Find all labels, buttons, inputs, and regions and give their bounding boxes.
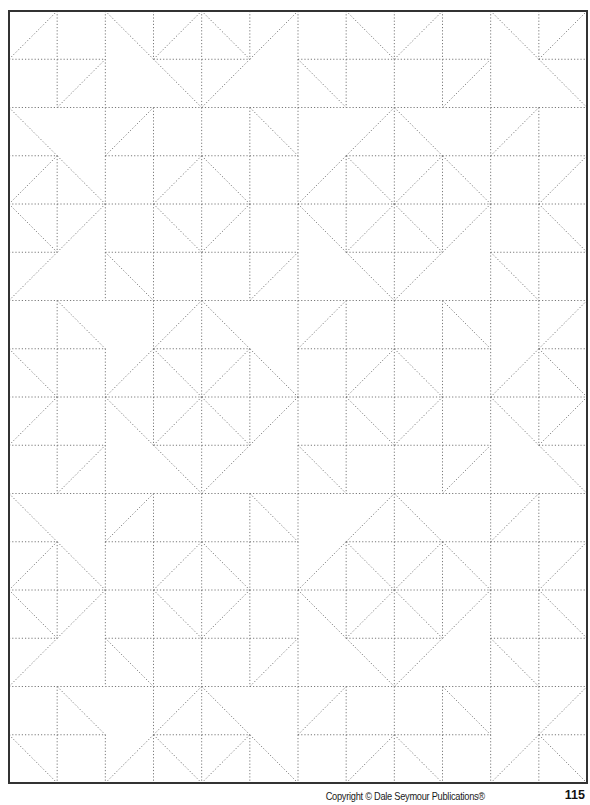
diagonal-dotted-line — [539, 445, 587, 493]
diagonal-dotted-line — [443, 590, 491, 638]
diagonal-dotted-line — [298, 301, 346, 349]
diagonal-dotted-line — [202, 735, 250, 783]
diagonal-dotted-line — [539, 735, 587, 783]
diagonal-dotted-line — [202, 59, 250, 107]
diagonal-dotted-line — [298, 590, 346, 638]
diagonal-dotted-line — [154, 59, 202, 107]
diagonal-dotted-line — [154, 542, 202, 590]
diagonal-dotted-line — [154, 397, 202, 445]
diagonal-dotted-line — [202, 687, 250, 735]
diagonal-dotted-line — [394, 252, 442, 300]
diagonal-dotted-line — [491, 638, 539, 686]
diagonal-dotted-line — [250, 252, 298, 300]
diagonal-dotted-line — [57, 204, 105, 252]
diagonal-dotted-line — [539, 59, 587, 107]
page-footer: Copyright © Dale Seymour Publications® 1… — [0, 784, 590, 805]
diagonal-dotted-line — [346, 349, 394, 397]
diagonal-dotted-line — [443, 687, 491, 735]
diagonal-dotted-line — [202, 11, 250, 59]
diagonal-dotted-line — [298, 542, 346, 590]
diagonal-dotted-line — [105, 11, 153, 59]
diagonal-dotted-line — [57, 445, 105, 493]
diagonal-dotted-line — [394, 735, 442, 783]
page-number: 115 — [565, 788, 585, 802]
diagonal-dotted-line — [154, 301, 202, 349]
diagonal-dotted-line — [539, 204, 587, 252]
diagonal-dotted-line — [105, 397, 153, 445]
diagonal-dotted-line — [202, 445, 250, 493]
diagonal-dotted-line — [346, 156, 394, 204]
diagonal-dotted-line — [346, 108, 394, 156]
diagonal-dotted-line — [250, 735, 298, 783]
diagonal-dotted-line — [105, 735, 153, 783]
diagonal-dotted-line — [250, 638, 298, 686]
diagonal-dotted-line — [539, 542, 587, 590]
diagonal-dotted-line — [9, 638, 57, 686]
diagonal-dotted-line — [394, 108, 442, 156]
diagonal-dotted-line — [539, 301, 587, 349]
diagonal-dotted-line — [539, 397, 587, 445]
diagonal-dotted-line — [394, 204, 442, 252]
diagonal-dotted-line — [202, 590, 250, 638]
quilt-pattern-grid — [0, 0, 590, 790]
diagonal-dotted-line — [250, 11, 298, 59]
diagonal-dotted-line — [394, 542, 442, 590]
diagonal-dotted-line — [539, 11, 587, 59]
diagonal-dotted-line — [9, 542, 57, 590]
diagonal-dotted-line — [105, 638, 153, 686]
diagonal-dotted-line — [154, 11, 202, 59]
diagonal-dotted-line — [539, 590, 587, 638]
diagonal-dotted-line — [491, 252, 539, 300]
diagonal-dotted-line — [105, 108, 153, 156]
diagonal-dotted-line — [346, 542, 394, 590]
diagonal-dotted-line — [491, 11, 539, 59]
diagonal-dotted-line — [394, 349, 442, 397]
diagonal-dotted-line — [346, 494, 394, 542]
diagonal-dotted-line — [202, 542, 250, 590]
diagonal-dotted-line — [250, 494, 298, 542]
diagonal-dotted-line — [154, 349, 202, 397]
diagonal-dotted-line — [298, 204, 346, 252]
dotted-pattern-lines — [9, 11, 587, 783]
diagonal-dotted-line — [539, 349, 587, 397]
diagonal-dotted-line — [443, 156, 491, 204]
diagonal-dotted-line — [491, 108, 539, 156]
diagonal-dotted-line — [105, 349, 153, 397]
diagonal-dotted-line — [298, 156, 346, 204]
diagonal-dotted-line — [394, 397, 442, 445]
diagonal-dotted-line — [9, 349, 57, 397]
diagonal-dotted-line — [346, 397, 394, 445]
diagonal-dotted-line — [202, 301, 250, 349]
diagonal-dotted-line — [57, 156, 105, 204]
diagonal-dotted-line — [202, 204, 250, 252]
diagonal-dotted-line — [298, 59, 346, 107]
diagonal-dotted-line — [394, 494, 442, 542]
diagonal-dotted-line — [9, 590, 57, 638]
diagonal-dotted-line — [443, 59, 491, 107]
diagonal-dotted-line — [491, 349, 539, 397]
diagonal-dotted-line — [202, 349, 250, 397]
diagonal-dotted-line — [491, 397, 539, 445]
diagonal-dotted-line — [298, 687, 346, 735]
diagonal-dotted-line — [539, 687, 587, 735]
diagonal-dotted-line — [57, 590, 105, 638]
diagonal-dotted-line — [394, 11, 442, 59]
diagonal-dotted-line — [250, 349, 298, 397]
diagonal-dotted-line — [105, 494, 153, 542]
diagonal-dotted-line — [154, 687, 202, 735]
diagonal-dotted-line — [9, 494, 57, 542]
diagonal-dotted-line — [57, 542, 105, 590]
diagonal-dotted-line — [346, 204, 394, 252]
diagonal-dotted-line — [394, 638, 442, 686]
diagonal-dotted-line — [202, 156, 250, 204]
diagonal-dotted-line — [394, 590, 442, 638]
diagonal-dotted-line — [9, 204, 57, 252]
diagonal-dotted-line — [250, 108, 298, 156]
diagonal-dotted-line — [9, 252, 57, 300]
diagonal-dotted-line — [202, 397, 250, 445]
diagonal-dotted-line — [9, 108, 57, 156]
diagonal-dotted-line — [346, 735, 394, 783]
diagonal-dotted-line — [539, 156, 587, 204]
diagonal-dotted-line — [491, 735, 539, 783]
diagonal-dotted-line — [346, 638, 394, 686]
